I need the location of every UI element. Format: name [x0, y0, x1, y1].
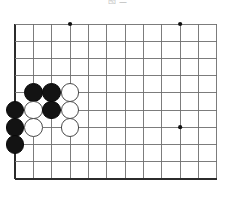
go-board[interactable] [0, 0, 236, 197]
stone-white-c1r6[interactable] [24, 118, 43, 137]
stone-black-c1r4[interactable] [24, 83, 43, 102]
stone-white-c1r5[interactable] [24, 101, 43, 120]
stone-black-c0r6[interactable] [6, 118, 25, 137]
go-diagram-figure: 图 二 [0, 0, 236, 197]
star-point-top-right-icon [178, 22, 182, 26]
stone-white-c3r6[interactable] [61, 118, 80, 137]
stone-black-c0r7[interactable] [6, 135, 25, 154]
star-point-mid-right-icon [178, 125, 182, 129]
star-point-top-left-icon [68, 22, 72, 26]
